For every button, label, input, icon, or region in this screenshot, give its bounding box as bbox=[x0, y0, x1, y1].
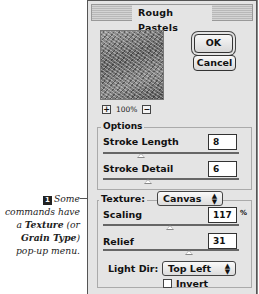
scaling-input[interactable]: 117 bbox=[208, 207, 237, 223]
options-group-label: Options bbox=[101, 121, 144, 131]
light-dir-popup-menu[interactable]: Top Left ▲▼ bbox=[162, 261, 236, 276]
filter-preview-image[interactable] bbox=[100, 30, 164, 100]
stroke-detail-slider-thumb[interactable] bbox=[144, 179, 152, 184]
scaling-unit: % bbox=[240, 209, 247, 217]
preview-zoom-controls: + 100% − bbox=[102, 104, 151, 114]
stroke-length-slider-track[interactable] bbox=[103, 152, 239, 154]
stroke-length-slider-thumb[interactable] bbox=[137, 153, 145, 158]
rough-pastels-dialog: Rough Pastels + 100% − OK Cancel Options… bbox=[87, 0, 257, 294]
stroke-detail-input[interactable]: 6 bbox=[208, 161, 237, 177]
checkbox-box[interactable] bbox=[163, 279, 172, 288]
scaling-label: Scaling bbox=[103, 209, 142, 220]
invert-label: Invert bbox=[176, 278, 208, 289]
invert-checkbox[interactable]: Invert bbox=[163, 278, 208, 289]
relief-slider-thumb[interactable] bbox=[185, 250, 193, 255]
texture-selected-value: Canvas bbox=[163, 193, 201, 204]
zoom-out-button[interactable]: − bbox=[142, 105, 151, 114]
zoom-level: 100% bbox=[116, 105, 137, 114]
stroke-length-input[interactable]: 8 bbox=[208, 134, 237, 150]
stroke-detail-label: Stroke Detail bbox=[103, 163, 173, 174]
popup-arrows-icon: ▲▼ bbox=[211, 192, 218, 205]
texture-label: Texture: bbox=[99, 193, 147, 204]
step-number-badge: 1 bbox=[43, 196, 52, 205]
caption-bold-texture: Texture bbox=[25, 219, 64, 230]
light-dir-selected-value: Top Left bbox=[168, 263, 211, 274]
texture-popup-menu[interactable]: Canvas ▲▼ bbox=[157, 191, 223, 206]
scaling-slider-thumb[interactable] bbox=[166, 225, 174, 230]
stroke-length-label: Stroke Length bbox=[103, 136, 179, 147]
stroke-detail-slider-track[interactable] bbox=[103, 178, 239, 180]
relief-input[interactable]: 31 bbox=[208, 233, 237, 249]
relief-label: Relief bbox=[103, 236, 134, 247]
caption-text: (or bbox=[64, 219, 80, 230]
title-bar[interactable]: Rough Pastels bbox=[91, 4, 253, 21]
popup-arrows-icon: ▲▼ bbox=[224, 262, 231, 275]
relief-slider-track[interactable] bbox=[103, 249, 239, 251]
ok-button[interactable]: OK bbox=[194, 34, 233, 53]
figure-caption: 1Some commands have a Texture (or Grain … bbox=[0, 192, 80, 257]
caption-bold-grain-type: Grain Type bbox=[21, 232, 76, 243]
light-dir-label: Light Dir: bbox=[108, 263, 158, 274]
cancel-button[interactable]: Cancel bbox=[193, 55, 236, 71]
zoom-in-button[interactable]: + bbox=[102, 105, 111, 114]
